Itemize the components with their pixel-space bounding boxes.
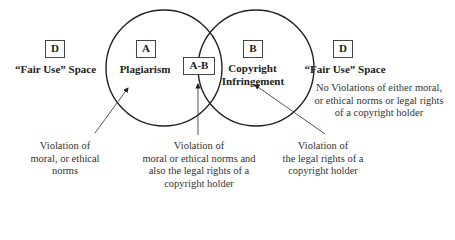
desc-line: No Violations of either moral, [305,82,453,95]
region-b-label-1: Copyright [220,62,285,74]
desc-line: of a copyright holder [305,107,453,120]
region-d-right-label: “Fair Use” Space [300,63,390,75]
annotation-line: Violation of [25,140,105,153]
annotation-line: copyright holder [138,178,260,191]
annotation-line: Violation of [138,140,260,153]
annotation-line: the legal rights of a [278,153,368,166]
annotation-line: norms [25,165,105,178]
annotation-line: also the legal rights of a [138,165,260,178]
region-d-right-box: D [333,40,353,58]
annotation-line: moral, or ethical [25,153,105,166]
region-d-right-desc: No Violations of either moral, or ethica… [305,82,453,120]
region-ab-box: A-B [183,57,215,75]
annotation-ab: Violation of moral or ethical norms and … [138,140,260,190]
annotation-line: moral or ethical norms and [138,153,260,166]
region-b-box: B [243,40,263,58]
annotation-line: Violation of [278,140,368,153]
region-b-label-2: Infringement [218,75,288,87]
arrow-a [95,88,128,133]
annotation-a: Violation of moral, or ethical norms [25,140,105,178]
desc-line: or ethical norms or legal rights [305,95,453,108]
annotation-b: Violation of the legal rights of a copyr… [278,140,368,178]
region-d-left-box: D [45,40,65,58]
region-a-box: A [136,40,156,58]
region-a-label: Plagiarism [110,63,180,75]
annotation-line: copyright holder [278,165,368,178]
region-d-left-label: “Fair Use” Space [8,63,103,75]
